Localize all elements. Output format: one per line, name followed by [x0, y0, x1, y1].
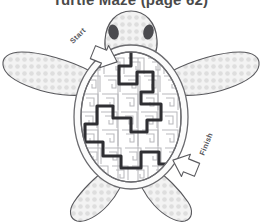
turtle-maze-figure: Start Finish [0, 0, 261, 224]
illustration-stage: Turtle Maze (page 62) [0, 0, 261, 224]
start-label: Start [68, 26, 88, 46]
finish-label: Finish [198, 131, 215, 157]
turtle-shell [74, 45, 188, 189]
